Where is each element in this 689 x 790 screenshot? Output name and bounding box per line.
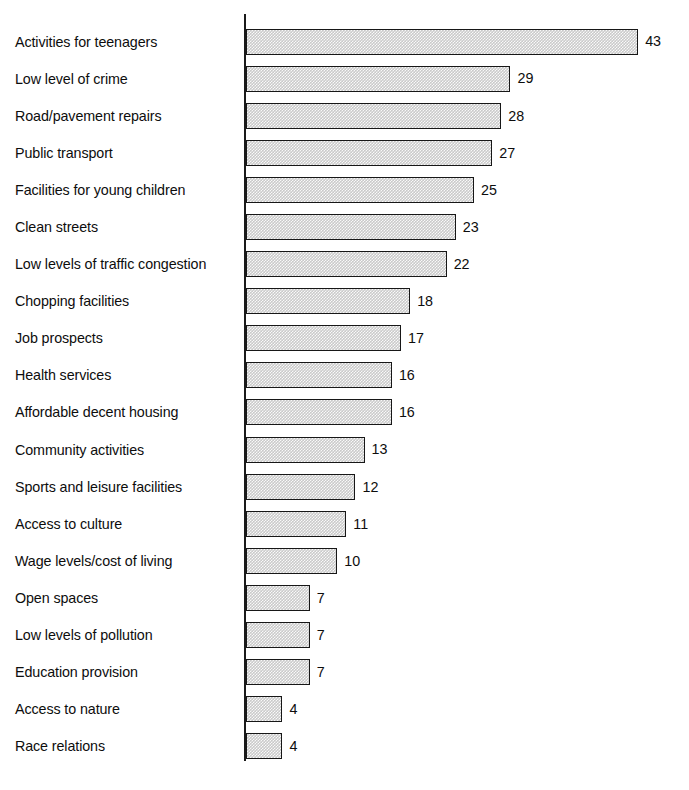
- bar-value-label: 27: [499, 146, 515, 160]
- bar: [246, 288, 410, 314]
- bar-row: Public transport27: [0, 134, 689, 171]
- category-label: Facilities for young children: [15, 183, 185, 197]
- bar-value-label: 10: [344, 554, 360, 568]
- bar-value-label: 4: [289, 702, 297, 716]
- bar-value-label: 7: [317, 591, 325, 605]
- bar-row: Open spaces7: [0, 579, 689, 616]
- bar: [246, 548, 337, 574]
- category-label: Health services: [15, 368, 111, 382]
- bar: [246, 511, 346, 537]
- bar-wrapper: 16: [246, 362, 415, 388]
- bar: [246, 103, 501, 129]
- bar-wrapper: 22: [246, 251, 470, 277]
- bar-wrapper: 29: [246, 66, 533, 92]
- bar-value-label: 7: [317, 628, 325, 642]
- bar-row: Health services16: [0, 357, 689, 394]
- bar: [246, 585, 310, 611]
- category-label: Low levels of pollution: [15, 628, 153, 642]
- bar: [246, 659, 310, 685]
- bar-wrapper: 25: [246, 177, 497, 203]
- bar-row: Education provision7: [0, 654, 689, 691]
- category-label: Low levels of traffic congestion: [15, 257, 206, 271]
- bar-wrapper: 4: [246, 696, 297, 722]
- bar: [246, 733, 282, 759]
- category-label: Chopping facilities: [15, 294, 129, 308]
- bar-row: Low level of crime29: [0, 60, 689, 97]
- bar-row: Access to culture11: [0, 505, 689, 542]
- bar-wrapper: 4: [246, 733, 297, 759]
- bar-wrapper: 7: [246, 622, 325, 648]
- category-label: Activities for teenagers: [15, 34, 157, 48]
- bar-value-label: 16: [399, 368, 415, 382]
- bar: [246, 177, 474, 203]
- bar-value-label: 28: [508, 109, 524, 123]
- bar-wrapper: 7: [246, 659, 325, 685]
- bar-rows: Activities for teenagers43Low level of c…: [0, 23, 689, 765]
- bar-row: Affordable decent housing16: [0, 394, 689, 431]
- bar-wrapper: 23: [246, 214, 479, 240]
- plot-area: Activities for teenagers43Low level of c…: [0, 0, 689, 790]
- bar-wrapper: 11: [246, 511, 368, 537]
- bar-row: Clean streets23: [0, 208, 689, 245]
- bar-value-label: 43: [645, 34, 661, 48]
- bar-wrapper: 18: [246, 288, 433, 314]
- bar: [246, 362, 392, 388]
- bar-value-label: 7: [317, 665, 325, 679]
- bar: [246, 325, 401, 351]
- bar-row: Race relations4: [0, 728, 689, 765]
- bar-value-label: 13: [372, 442, 388, 456]
- bar-row: Sports and leisure facilities12: [0, 468, 689, 505]
- bar-wrapper: 10: [246, 548, 360, 574]
- category-label: Sports and leisure facilities: [15, 480, 182, 494]
- bar-row: Wage levels/cost of living10: [0, 542, 689, 579]
- bar: [246, 474, 355, 500]
- bar-row: Facilities for young children25: [0, 171, 689, 208]
- category-label: Public transport: [15, 146, 113, 160]
- bar: [246, 437, 365, 463]
- bar: [246, 140, 492, 166]
- category-label: Road/pavement repairs: [15, 109, 162, 123]
- bar-wrapper: 13: [246, 437, 387, 463]
- bar-wrapper: 12: [246, 474, 378, 500]
- bar-row: Low levels of pollution7: [0, 617, 689, 654]
- category-label: Access to nature: [15, 702, 120, 716]
- bar-row: Low levels of traffic congestion22: [0, 246, 689, 283]
- category-label: Education provision: [15, 665, 138, 679]
- category-label: Wage levels/cost of living: [15, 554, 172, 568]
- bar-row: Access to nature4: [0, 691, 689, 728]
- bar: [246, 214, 456, 240]
- bar: [246, 696, 282, 722]
- bar-row: Activities for teenagers43: [0, 23, 689, 60]
- category-label: Access to culture: [15, 517, 122, 531]
- bar-value-label: 18: [417, 294, 433, 308]
- bar-value-label: 17: [408, 331, 424, 345]
- bar: [246, 66, 510, 92]
- category-label: Clean streets: [15, 220, 98, 234]
- bar-value-label: 12: [362, 480, 378, 494]
- category-label: Affordable decent housing: [15, 405, 178, 419]
- bar-value-label: 16: [399, 405, 415, 419]
- bar: [246, 399, 392, 425]
- bar: [246, 251, 447, 277]
- category-label: Low level of crime: [15, 71, 128, 85]
- category-label: Community activities: [15, 442, 144, 456]
- bar-value-label: 29: [517, 71, 533, 85]
- bar-value-label: 4: [289, 739, 297, 753]
- bar-wrapper: 17: [246, 325, 424, 351]
- bar-value-label: 22: [454, 257, 470, 271]
- bar-row: Job prospects17: [0, 320, 689, 357]
- category-label: Job prospects: [15, 331, 103, 345]
- bar-value-label: 11: [353, 517, 368, 531]
- bar-wrapper: 28: [246, 103, 524, 129]
- bar-value-label: 23: [463, 220, 479, 234]
- bar-row: Chopping facilities18: [0, 283, 689, 320]
- bar-row: Road/pavement repairs28: [0, 97, 689, 134]
- bar: [246, 29, 638, 55]
- bar-wrapper: 27: [246, 140, 515, 166]
- category-label: Open spaces: [15, 591, 98, 605]
- bar-wrapper: 7: [246, 585, 325, 611]
- bar-row: Community activities13: [0, 431, 689, 468]
- category-label: Race relations: [15, 739, 105, 753]
- horizontal-bar-chart: Activities for teenagers43Low level of c…: [0, 0, 689, 790]
- bar-wrapper: 16: [246, 399, 415, 425]
